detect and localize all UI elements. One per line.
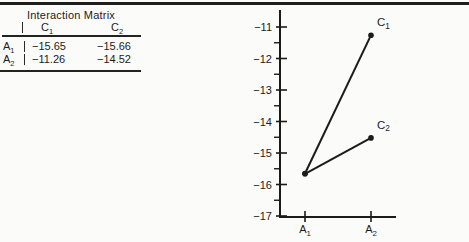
x-tick-label: A1 [299,223,311,238]
y-tick-label: −14 [253,116,272,128]
y-tick-label: −15 [253,147,272,159]
series-line-c2 [305,138,371,174]
y-tick-label: −13 [253,84,272,96]
data-point [302,171,308,177]
scanned-figure-page: Interaction Matrix C1 C2 A1 −15.65 −15.6… [0,0,469,242]
y-tick-label: −11 [254,21,272,33]
y-tick-label: −17 [253,210,272,222]
axes [280,10,396,217]
y-tick-label: −16 [253,179,272,191]
y-tick-label: −12 [253,53,272,65]
series-label-c1: C1 [377,16,390,31]
x-tick-label: A2 [365,223,377,238]
series-line-c1 [305,35,371,173]
series-label-c2: C2 [377,119,390,134]
data-point [368,32,374,38]
interaction-plot: −11−12−13−14−15−16−17A1A2C1C2 [0,0,469,242]
data-point [368,135,374,141]
